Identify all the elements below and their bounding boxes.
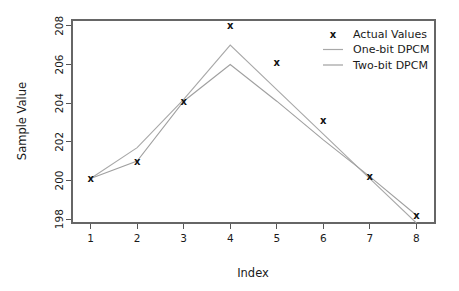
y-tick-label: 198 xyxy=(53,209,65,229)
legend-marker-glyph: x xyxy=(330,29,337,40)
x-tick-label: 3 xyxy=(180,232,187,244)
x-tick-label: 7 xyxy=(367,232,374,244)
y-tick-label: 206 xyxy=(53,54,65,74)
y-tick-label: 208 xyxy=(53,16,65,36)
chart-canvas: 198200202204206208 12345678 xxxxxxxx xAc… xyxy=(0,0,459,291)
data-point-marker: x xyxy=(413,210,420,221)
x-tick-label: 1 xyxy=(87,232,94,244)
x-axis-title: Index xyxy=(237,266,269,280)
y-tick-label: 204 xyxy=(53,93,65,113)
data-point-marker: x xyxy=(320,115,327,126)
data-point-marker: x xyxy=(227,20,234,31)
legend-entry-label: Actual Values xyxy=(353,28,427,41)
data-point-marker: x xyxy=(180,96,187,107)
data-point-marker: x xyxy=(367,171,374,182)
x-tick-label: 4 xyxy=(227,232,234,244)
data-point-marker: x xyxy=(274,57,281,68)
x-tick-label: 8 xyxy=(413,232,420,244)
x-tick-label: 5 xyxy=(273,232,280,244)
y-tick-label: 200 xyxy=(53,170,65,190)
y-axis-title: Sample Value xyxy=(15,82,29,160)
data-point-marker: x xyxy=(134,156,141,167)
y-tick-label: 202 xyxy=(53,132,65,152)
x-tick-label: 6 xyxy=(320,232,327,244)
legend-entry-label: One-bit DPCM xyxy=(353,43,430,56)
chart-figure: 198200202204206208 12345678 xxxxxxxx xAc… xyxy=(0,0,459,291)
x-tick-label: 2 xyxy=(134,232,141,244)
data-point-marker: x xyxy=(87,173,94,184)
legend-entry-label: Two-bit DPCM xyxy=(352,59,428,72)
